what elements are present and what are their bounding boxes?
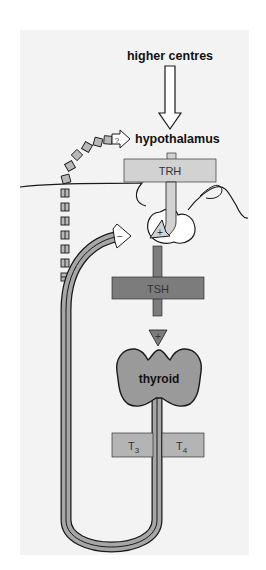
inhibit-minus: −	[117, 231, 123, 242]
hypothalamus-label: hypothalamus	[135, 132, 220, 146]
trh-label: TRH	[159, 165, 182, 177]
thyroid-label: thyroid	[139, 372, 180, 386]
thyroid-plus: +	[155, 331, 161, 342]
tsh-label: TSH	[147, 283, 169, 295]
higher-centres-label: higher centres	[127, 49, 213, 63]
pituitary-plus: +	[157, 227, 163, 238]
thyroid-axis-diagram: higher centres hypothalamus ? TRH	[0, 0, 266, 570]
question-mark: ?	[115, 136, 120, 145]
